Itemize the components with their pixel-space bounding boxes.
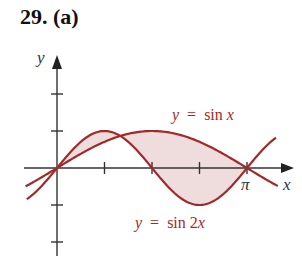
x-axis-arrow-icon — [281, 163, 294, 173]
sin-2x-label: y=sin 2x — [133, 214, 205, 232]
y-axis-arrow-icon — [52, 55, 62, 69]
sin-x-label: y=sinx — [170, 106, 234, 124]
x-axis-label: x — [282, 175, 291, 194]
graph: y x π y=sinx y=sin 2x — [0, 0, 302, 264]
y-axis-label: y — [35, 48, 45, 67]
pi-tick-label: π — [241, 175, 250, 194]
